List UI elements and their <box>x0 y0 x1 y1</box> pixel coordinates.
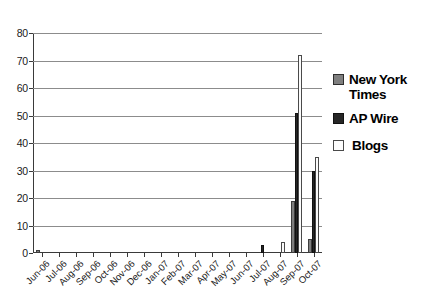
legend-swatch-nyt <box>333 74 344 85</box>
y-axis-label: 30 <box>2 165 28 177</box>
bar-group <box>172 33 182 253</box>
x-tick-mark <box>229 253 230 257</box>
x-tick-mark <box>59 253 60 257</box>
x-tick-mark <box>93 253 94 257</box>
bar-group <box>155 33 165 253</box>
bar-group <box>104 33 114 253</box>
y-axis-label: 40 <box>2 137 28 149</box>
bar-group <box>121 33 131 253</box>
bar-chart: 01020304050607080 Jun-06Jul-06Aug-06Sep-… <box>0 0 432 308</box>
legend-label: New York Times <box>349 72 432 102</box>
bar-group <box>240 33 250 253</box>
y-axis-label: 80 <box>2 27 28 39</box>
chart-legend: New York TimesAP WireBlogs <box>333 72 432 162</box>
legend-label: Blogs <box>352 138 388 153</box>
legend-swatch-ap <box>333 113 344 124</box>
bar <box>36 250 39 253</box>
y-axis-label: 0 <box>2 247 28 259</box>
x-tick-mark <box>42 253 43 257</box>
legend-item: New York Times <box>333 72 432 102</box>
x-tick-mark <box>280 253 281 257</box>
legend-swatch-blogs <box>333 140 344 151</box>
bar-group <box>206 33 216 253</box>
bar-group <box>36 33 46 253</box>
x-tick-mark <box>263 253 264 257</box>
x-tick-mark <box>127 253 128 257</box>
bar-group <box>223 33 233 253</box>
y-axis-label: 20 <box>2 192 28 204</box>
y-axis-label: 50 <box>2 110 28 122</box>
bar-group <box>53 33 63 253</box>
legend-item: AP Wire <box>333 111 432 126</box>
bar-group <box>308 33 318 253</box>
bar-group <box>138 33 148 253</box>
x-tick-mark <box>110 253 111 257</box>
x-tick-mark <box>144 253 145 257</box>
bar <box>261 245 264 253</box>
y-axis-label: 70 <box>2 55 28 67</box>
y-tick-mark <box>29 253 33 254</box>
legend-label: AP Wire <box>349 111 398 126</box>
bar-group <box>70 33 80 253</box>
x-tick-mark <box>212 253 213 257</box>
y-axis-label: 10 <box>2 220 28 232</box>
x-tick-mark <box>161 253 162 257</box>
legend-item: Blogs <box>333 138 432 153</box>
x-tick-mark <box>178 253 179 257</box>
bar <box>281 242 284 253</box>
bar-group <box>257 33 267 253</box>
x-tick-mark <box>195 253 196 257</box>
x-tick-mark <box>76 253 77 257</box>
bar <box>315 157 318 253</box>
bar-group <box>274 33 284 253</box>
bar-group <box>291 33 301 253</box>
bar-group <box>189 33 199 253</box>
x-tick-mark <box>297 253 298 257</box>
x-tick-mark <box>314 253 315 257</box>
x-tick-mark <box>246 253 247 257</box>
y-axis-label: 60 <box>2 82 28 94</box>
bar-group <box>87 33 97 253</box>
bar <box>298 55 301 253</box>
bars-layer <box>33 33 322 253</box>
